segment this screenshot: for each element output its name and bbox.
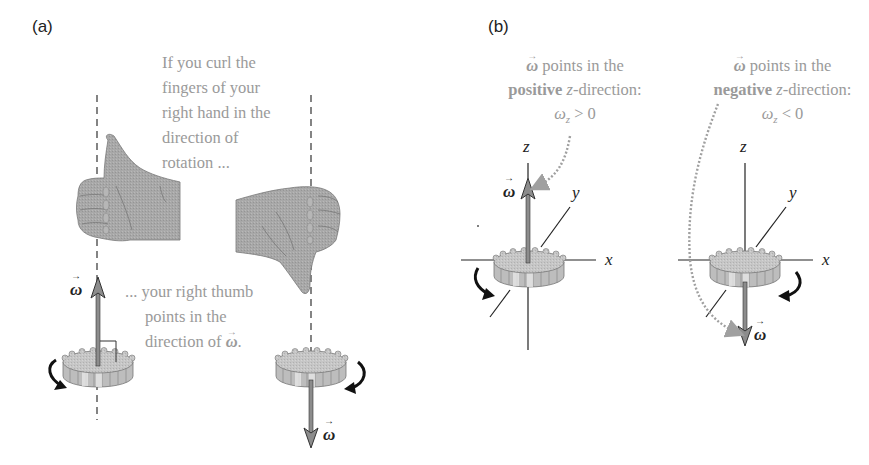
note-line: ω points in the	[695, 54, 869, 78]
omega-symbol: ω	[503, 182, 515, 202]
omega-down-arrow-a	[304, 380, 318, 448]
axis-x-label-left: x	[605, 250, 613, 270]
note-line: ω points in the	[495, 54, 655, 78]
omega-z-symbol: ω	[554, 104, 566, 123]
omega-label-b-right: ω	[754, 325, 766, 345]
note-curl-fingers: If you curl the fingers of your right ha…	[162, 50, 271, 175]
note-line: direction of ω.	[125, 329, 253, 354]
note-line: rotation ...	[162, 150, 271, 175]
note-line: If you curl the	[162, 50, 271, 75]
note-negative-z: ω points in the negative z-direction: ωz…	[695, 54, 869, 131]
omega-symbol: ω	[226, 329, 238, 354]
note-line: positive z-direction:	[495, 78, 655, 102]
omega-symbol: ω	[754, 325, 766, 345]
note-line: negative z-direction:	[695, 78, 869, 102]
axis-z-label-left: z	[523, 137, 530, 157]
note-line: right hand in the	[162, 100, 271, 125]
omega-label-a-down: ω	[323, 425, 335, 445]
note-text: points in the	[538, 56, 624, 75]
positive-label: positive	[508, 80, 562, 99]
omega-label-b-left: ω	[503, 182, 515, 202]
omega-symbol: ω	[526, 54, 538, 78]
omega-down-arrow-b	[738, 282, 752, 346]
omega-z-symbol: ω	[762, 104, 774, 123]
axis-y-label-right: y	[789, 183, 797, 203]
note-line: fingers of your	[162, 75, 271, 100]
note-line: ωz < 0	[695, 102, 869, 131]
note-text: -direction:	[573, 80, 642, 99]
right-hand-thumb-down-icon	[236, 187, 340, 294]
relation: < 0	[778, 104, 804, 123]
note-period: .	[238, 332, 242, 351]
omega-label-a-up: ω	[70, 280, 82, 300]
dotted-pointer-arrow-b-right	[689, 104, 736, 332]
omega-symbol: ω	[70, 280, 82, 300]
note-right-thumb: ... your right thumb points in the direc…	[125, 279, 253, 354]
gear-icon-b-right	[709, 248, 782, 288]
note-line: direction of	[162, 125, 271, 150]
axis-x-label-right: x	[822, 250, 830, 270]
note-text: points in the	[746, 56, 832, 75]
dotted-pointer-arrow-b-left	[538, 136, 570, 186]
omega-symbol: ω	[734, 54, 746, 78]
omega-symbol: ω	[323, 425, 335, 445]
axis-y-label-left: y	[572, 183, 580, 203]
note-text: -direction:	[783, 80, 852, 99]
note-text: direction of	[145, 332, 222, 351]
negative-label: negative	[714, 80, 773, 99]
axis-z-label-right: z	[740, 137, 747, 157]
relation: > 0	[570, 104, 596, 123]
note-line: ... your right thumb	[125, 279, 253, 304]
note-positive-z: ω points in the positive z-direction: ωz…	[495, 54, 655, 131]
note-line: ωz > 0	[495, 102, 655, 131]
